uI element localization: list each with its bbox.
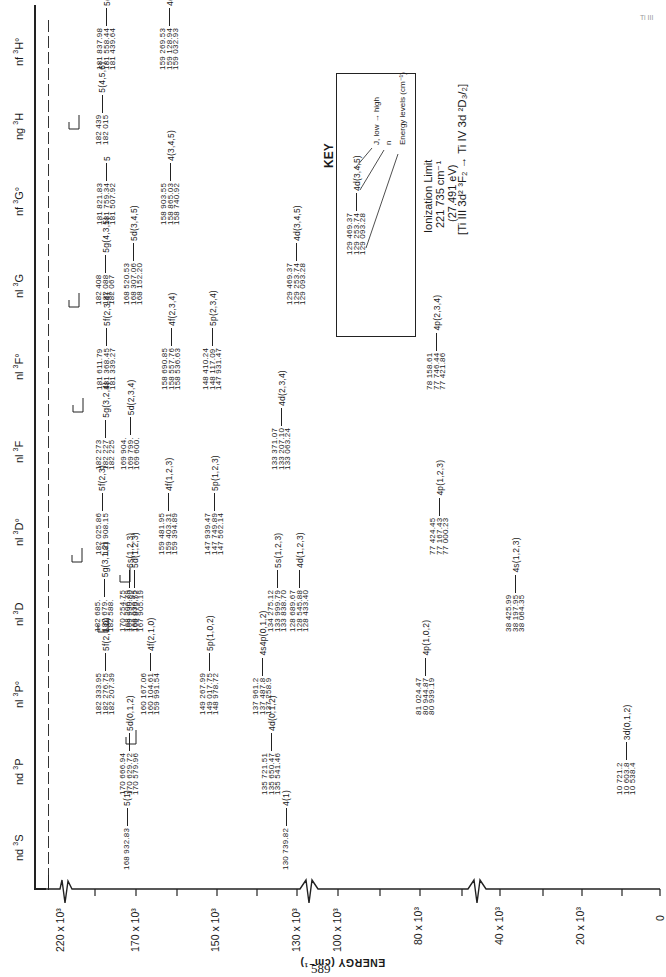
energy-level-nl-3d: 134 275.12133 999.79133 838.705s(1,2,3)	[268, 533, 288, 632]
level-term: 5	[102, 156, 111, 161]
level-values: 135 721.51135 650.47135 541.46	[262, 753, 282, 795]
level-values: 168 520.53168 307.06168 152.20	[124, 263, 144, 305]
page-number: 589	[311, 961, 331, 977]
column-header-nl-3fo: nl 3F°	[12, 353, 25, 380]
energy-level-nl-3d: 168 206.79168 030.75167 905.195d(1,2,3)	[125, 532, 145, 632]
energy-level-nl-3f: 133 371.07133 207.10133 063.244d(2,3,4)	[272, 370, 292, 470]
level-values: 134 275.12133 999.79133 838.70	[268, 590, 288, 632]
level-bar	[516, 575, 517, 593]
corner-label: Ti III	[640, 14, 653, 21]
level-term: 5s(1,2,3)	[273, 533, 282, 568]
level-bar	[171, 328, 172, 346]
key-label-energy: Energy levels (cm⁻¹)	[399, 72, 407, 145]
configuration-title: [Ti III 3d² ³F₂ → Ti IV 3d ²D₃/₂]	[456, 84, 468, 235]
level-bar	[168, 493, 169, 511]
energy-level-nl-3do: 182 025.86181 908.155f(2,3)	[96, 465, 109, 555]
level-bar	[169, 8, 170, 26]
column-header-nl-3po: nl 3P°	[12, 681, 25, 708]
level-term: 5(4,5,6)	[102, 0, 111, 6]
energy-level-nl-3d: 38 425.9938 197.9538 064.354s(1,2,3)	[506, 537, 526, 632]
level-bar	[262, 658, 263, 676]
frame-bottom-left	[34, 888, 46, 890]
level-term: 4(4,5,6)	[165, 0, 174, 6]
level-term: 4f(2,3,4)	[168, 292, 177, 325]
key-label-j: J, low → high	[373, 97, 381, 145]
energy-level-ng-3h: 182 439182 0155(4,5,6)	[96, 62, 109, 145]
energy-level-nl-3po: 149 267.99149 017.75148 978.725p(1,0,2)	[200, 615, 220, 715]
axis-tick-220k: 220 x 10³	[55, 908, 66, 952]
level-term: 4(3,4,5)	[167, 130, 176, 161]
axis-tick-150k: 150 x 10³	[210, 908, 221, 952]
level-bar	[281, 408, 282, 426]
level-term: 4p(2,3,4)	[433, 295, 442, 331]
column-header-ng-3h: ng 3H	[12, 113, 25, 140]
energy-level-nl-3g: 182 408182 088182 0675g(4,3,5)	[96, 217, 116, 305]
level-values: 159 269.53159 128.94159 032.93	[160, 28, 180, 70]
level-bar	[626, 742, 627, 760]
column-header-nl-3d: nl 3D	[12, 603, 25, 626]
key-heading: KEY	[323, 143, 335, 168]
frame-vertical-left	[34, 5, 36, 890]
column-header-nf-3go: nf 3G°	[12, 187, 25, 216]
energy-level-nl-3fo: 148 410.24148 117.09147 931.475p(2,3,4)	[203, 290, 223, 390]
level-bar	[214, 493, 215, 511]
level-bar	[130, 417, 131, 435]
level-values: 133 371.07133 207.10133 063.24	[272, 428, 292, 470]
column-header-nl-3g: nl 3G	[12, 274, 25, 298]
level-values: 38 425.9938 197.9538 064.35	[506, 595, 526, 632]
level-values: 159 481.95159 403.31159 394.89	[159, 513, 179, 555]
column-header-nl-3do: nl 3D°	[12, 518, 25, 546]
column-header-nd-3p: nd 3P	[12, 758, 25, 785]
energy-level-nl-3g: 129 469.37129 253.74129 093.284d(3,4,5)	[287, 205, 307, 305]
level-values: 130 739.82	[283, 828, 290, 870]
level-bar	[127, 808, 128, 826]
level-term: 4p(1,0,2)	[421, 620, 430, 656]
energy-level-nl-3po: 81 024.4780 944.8780 939.194p(1,0,2)	[416, 620, 436, 715]
level-values: 158 903.55158 865.03158 740.92	[161, 183, 181, 225]
axis-tick-40k: 40 x 10³	[494, 907, 505, 945]
level-bar	[104, 579, 105, 597]
level-bar	[105, 653, 106, 671]
level-term: 4d(2,3,4)	[277, 370, 286, 406]
key-sample-level: 129 469.37 129 253.74 129 093.28 4d(3,4,…	[347, 155, 367, 255]
energy-level-nl-3d: 182 685.182 679.182 588.5g(3,1,2)	[95, 541, 115, 632]
level-term: 5p(2,3,4)	[209, 290, 218, 326]
energy-level-nl-3fo: 158 690.85158 557.76158 536.634f(2,3,4)	[162, 292, 182, 390]
level-values: 181 837.98181 558.44181 439.64	[97, 28, 117, 70]
level-values: 148 410.24148 117.09147 931.47	[203, 348, 223, 390]
level-values: 182 685.182 679.182 588.	[95, 599, 115, 632]
level-values: 137 961.2137 487.8137 258.9	[253, 678, 273, 715]
level-term: 4d(3,4,5)	[293, 205, 302, 241]
level-term: 4f(1,2,3)	[165, 457, 174, 490]
level-term: 4p(1,2,3)	[436, 460, 445, 496]
column-header-nd-3s: nd 3S	[12, 834, 25, 861]
level-term: 5d(0,1,2)	[125, 695, 134, 731]
level-values: 160 167.06160 104.61159 991.54	[141, 673, 161, 715]
level-values: 78 158.6177 746.4477 421.86	[427, 353, 447, 390]
level-bar	[286, 808, 287, 826]
level-values: 182 439182 015	[96, 115, 109, 145]
level-bar	[356, 193, 357, 211]
level-bar	[271, 733, 272, 751]
axis-tick-130k: 130 x 10³	[291, 908, 302, 952]
energy-level-nd-3p: 170 666.94170 629.72170 579.965d(0,1,2)	[120, 695, 140, 795]
level-bar	[106, 8, 107, 26]
axis-tick-20k: 20 x 10³	[575, 907, 586, 945]
level-values: 147 939.47147 749.89147 562.14	[205, 513, 225, 555]
level-term: 3d(0,1,2)	[623, 704, 632, 740]
level-term: 4d(1,2,3)	[296, 532, 305, 568]
ionization-limit-cm: 221 735 cm⁻¹	[434, 161, 446, 228]
energy-level-nl-3do: 77 424.4577 167.4377 000.234p(1,2,3)	[430, 460, 450, 555]
level-values: 181 821.83181 759.34181 507.92	[97, 183, 117, 225]
level-values: 158 690.85158 557.76158 536.63	[162, 348, 182, 390]
level-bar	[102, 95, 103, 113]
level-values: 182 408182 088182 067	[96, 275, 116, 305]
level-bar	[150, 653, 151, 671]
level-bar	[105, 255, 106, 273]
energy-level-nl-3fo: 181 611.79181 368.45181 339.275f(2,3,4)	[97, 292, 117, 390]
energy-level-nf-3go: 181 821.83181 759.34181 507.925	[97, 156, 117, 225]
level-term: 5p(1,0,2)	[205, 615, 214, 651]
ionization-limit-label: Ionization Limit	[422, 160, 434, 233]
level-bar	[213, 328, 214, 346]
energy-level-nl-3d: 128 689.67128 545.88128 433.404d(1,2,3)	[290, 532, 310, 632]
